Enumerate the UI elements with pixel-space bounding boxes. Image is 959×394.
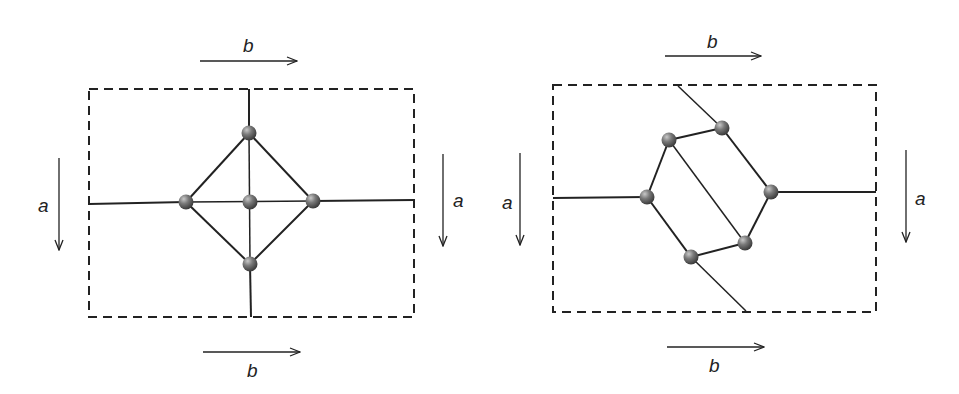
lattice-vector-b-label-top: b: [243, 35, 254, 56]
lattice-vector-b-label-bottom: b: [709, 355, 720, 376]
unit-cell-box: [553, 85, 876, 312]
left-panel: b a a b: [38, 35, 464, 381]
atom-node: [179, 195, 194, 210]
atom-node: [242, 126, 257, 141]
atom-node: [243, 195, 258, 210]
atom-node: [306, 194, 321, 209]
lattice-vector-a-label-right: a: [453, 190, 464, 211]
atom-node: [662, 133, 677, 148]
atom-node: [684, 250, 699, 265]
atom-node: [243, 257, 258, 272]
bonds: [553, 86, 876, 311]
lattice-diagram: b a a b b a: [0, 0, 959, 394]
lattice-vector-b-label-top: b: [707, 31, 718, 52]
atom-node: [764, 185, 779, 200]
lattice-vector-a-label-left: a: [502, 192, 513, 213]
right-panel: b a a b: [502, 31, 926, 376]
atom-node: [640, 190, 655, 205]
atom-node: [715, 121, 730, 136]
lattice-vector-a-label-left: a: [38, 195, 49, 216]
atoms: [640, 121, 779, 265]
atom-node: [738, 236, 753, 251]
lattice-vector-a-label-right: a: [915, 188, 926, 209]
lattice-vector-b-label-bottom: b: [247, 360, 258, 381]
